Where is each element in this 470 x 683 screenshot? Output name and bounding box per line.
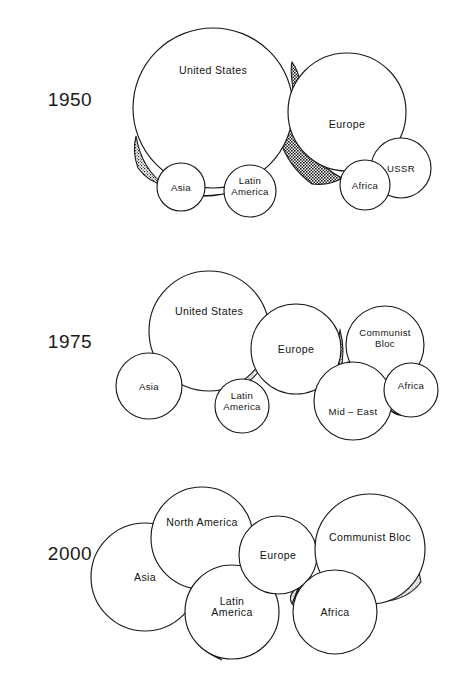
- bubble-label: Europe: [260, 549, 296, 561]
- year-label-2000: 2000: [48, 543, 92, 564]
- bubble[interactable]: Mid – East: [314, 362, 392, 440]
- bubble[interactable]: Asia: [116, 353, 182, 419]
- year-label-1975: 1975: [48, 331, 92, 352]
- bubble-circle[interactable]: [133, 28, 293, 188]
- bubble[interactable]: Africa: [384, 363, 438, 417]
- bubble[interactable]: Africa: [340, 160, 390, 210]
- bubble[interactable]: Africa: [293, 570, 377, 654]
- bubble[interactable]: Asia: [157, 163, 205, 211]
- bubble-label: Africa: [320, 606, 349, 618]
- bubble-label: Europe: [278, 343, 314, 355]
- bubble[interactable]: LatinAmerica: [224, 165, 276, 217]
- bubble-label: North America: [166, 516, 238, 528]
- bubble-label: Mid – East: [329, 406, 378, 417]
- bubble-label: Europe: [329, 118, 365, 130]
- bubble-label: United States: [179, 64, 247, 76]
- bubble[interactable]: LatinAmerica: [215, 379, 269, 433]
- bubble-label: United States: [175, 305, 243, 317]
- year-label-1950: 1950: [48, 89, 92, 110]
- bubble-label: Africa: [352, 180, 379, 191]
- bubble[interactable]: United States: [133, 28, 293, 188]
- bubble-label: USSR: [387, 163, 415, 174]
- bubble-label: Asia: [171, 182, 191, 193]
- bubble-label: Africa: [398, 380, 425, 391]
- bubble-label: Asia: [134, 571, 156, 583]
- bubble-diagram: 1950United StatesEuropeUSSRAsiaLatinAmer…: [0, 0, 470, 683]
- bubble-circle[interactable]: [314, 362, 392, 440]
- bubble-label: Communist Bloc: [329, 531, 411, 543]
- bubble-label: Asia: [139, 381, 159, 392]
